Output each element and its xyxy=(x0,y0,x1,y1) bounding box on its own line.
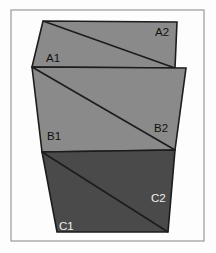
label-b2: B2 xyxy=(154,122,168,134)
panel-c-group: C1 C2 xyxy=(42,150,175,232)
label-c1: C1 xyxy=(59,220,74,232)
figure-container: A1 A2 B1 B2 C1 C2 xyxy=(0,0,216,253)
label-c2: C2 xyxy=(151,192,166,204)
label-a1: A1 xyxy=(46,52,60,64)
geometric-diagram: A1 A2 B1 B2 C1 C2 xyxy=(0,0,216,253)
panel-a-group: A1 A2 xyxy=(32,21,177,68)
panel-b-group: B1 B2 xyxy=(32,67,186,152)
label-a2: A2 xyxy=(155,26,169,38)
label-b1: B1 xyxy=(47,130,61,142)
